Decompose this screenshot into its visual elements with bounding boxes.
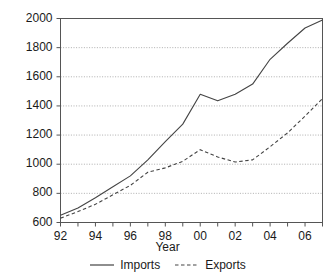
legend-swatch-dashed-icon	[174, 260, 200, 270]
x-axis-ticks	[61, 223, 323, 227]
legend-item-exports: Exports	[174, 258, 246, 272]
legend-label-exports: Exports	[205, 258, 246, 272]
y-tick-label: 1400	[13, 98, 53, 112]
y-tick-label: 600	[13, 215, 53, 229]
legend-item-imports: Imports	[89, 258, 160, 272]
chart-legend: Imports Exports	[0, 258, 335, 272]
y-tick-label: 2000	[13, 11, 53, 25]
gridlines	[61, 48, 323, 194]
legend-swatch-solid-icon	[89, 260, 115, 270]
series-line-exports	[61, 99, 323, 218]
y-tick-label: 1000	[13, 156, 53, 170]
y-tick-label: 1200	[13, 127, 53, 141]
y-tick-label: 1800	[13, 40, 53, 54]
x-axis-title: Year	[0, 240, 335, 254]
y-axis-ticks	[57, 19, 61, 223]
y-tick-label: 800	[13, 185, 53, 199]
y-tick-label: 1600	[13, 69, 53, 83]
legend-label-imports: Imports	[120, 258, 160, 272]
line-chart: 200018001600140012001000800600 929496980…	[0, 0, 335, 280]
plot-frame	[61, 19, 323, 223]
data-series-layer	[61, 20, 323, 218]
series-line-imports	[61, 20, 323, 215]
